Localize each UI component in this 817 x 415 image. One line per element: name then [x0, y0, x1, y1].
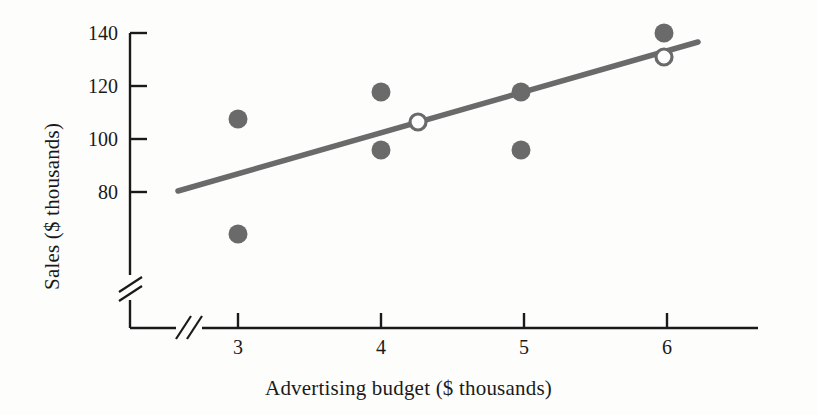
y-axis-ticks	[130, 33, 147, 192]
plot-canvas	[0, 0, 817, 415]
y-axis-break-icon	[119, 277, 142, 301]
regression-line	[178, 42, 698, 191]
data-point	[372, 141, 391, 160]
y-tick-label-140: 140	[88, 22, 118, 45]
x-tick-label-4: 4	[376, 336, 386, 359]
data-point	[655, 24, 674, 43]
x-axis-break-icon	[176, 316, 202, 339]
y-tick-label-80: 80	[98, 181, 118, 204]
y-axis-title: Sales ($ thousands)	[40, 123, 65, 290]
y-tick-label-120: 120	[88, 75, 118, 98]
x-tick-label-6: 6	[662, 336, 672, 359]
x-tick-label-5: 5	[519, 336, 529, 359]
x-axis-ticks	[238, 313, 667, 328]
data-point	[512, 83, 531, 102]
data-point	[229, 225, 248, 244]
data-point	[372, 83, 391, 102]
data-points-observed	[229, 24, 674, 244]
predicted-point	[656, 49, 672, 65]
x-axis-title: Advertising budget ($ thousands)	[0, 376, 817, 401]
y-tick-label-100: 100	[88, 128, 118, 151]
data-point	[512, 141, 531, 160]
x-tick-label-3: 3	[233, 336, 243, 359]
data-point	[229, 110, 248, 129]
scatter-plot-figure: 140 120 100 80 3 4 5 6 Advertising budge…	[0, 0, 817, 415]
predicted-point	[410, 114, 426, 130]
